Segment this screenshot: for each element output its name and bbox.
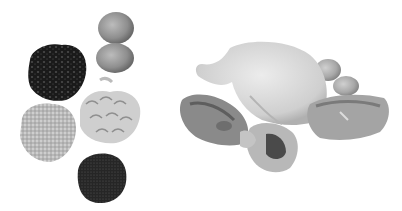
fish-steak: [307, 95, 389, 140]
steak: [180, 94, 248, 145]
cashews: [80, 78, 140, 143]
eggs: [96, 12, 134, 73]
seeds: [78, 154, 127, 203]
food-photo: [0, 0, 402, 211]
shellfish: [240, 123, 298, 172]
black-beans: [28, 44, 86, 101]
grains: [20, 104, 76, 162]
